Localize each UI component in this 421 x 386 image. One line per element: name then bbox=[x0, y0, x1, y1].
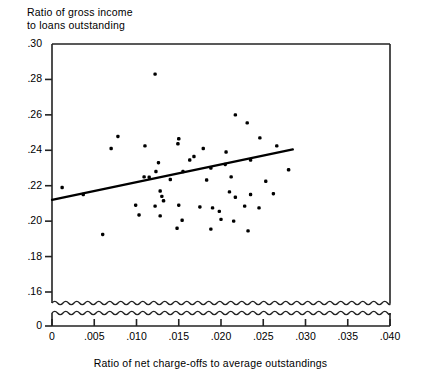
x-tick-label: .010 bbox=[117, 330, 157, 342]
data-point bbox=[192, 155, 195, 158]
data-point bbox=[153, 72, 156, 75]
data-point bbox=[158, 189, 161, 192]
data-point bbox=[142, 175, 145, 178]
data-point bbox=[224, 150, 227, 153]
data-point bbox=[109, 147, 112, 150]
data-point bbox=[176, 142, 179, 145]
data-point bbox=[147, 176, 150, 179]
data-point bbox=[154, 170, 157, 173]
y-tick-label: .22 bbox=[18, 179, 42, 191]
x-tick-label: .040 bbox=[370, 330, 410, 342]
y-tick-label: .30 bbox=[18, 37, 42, 49]
scatter-plot-figure: Ratio of gross income to loans outstandi… bbox=[0, 0, 421, 386]
data-point bbox=[162, 199, 165, 202]
data-point bbox=[211, 206, 214, 209]
data-point bbox=[229, 175, 232, 178]
data-point bbox=[272, 192, 275, 195]
x-tick-label: .005 bbox=[74, 330, 114, 342]
data-point bbox=[158, 214, 161, 217]
data-points bbox=[60, 72, 290, 236]
data-point bbox=[209, 227, 212, 230]
data-point bbox=[157, 161, 160, 164]
x-tick-label: 0 bbox=[32, 330, 72, 342]
data-point bbox=[205, 178, 208, 181]
data-point bbox=[218, 210, 221, 213]
data-point bbox=[224, 163, 227, 166]
data-point bbox=[175, 227, 178, 230]
x-tick-label: .015 bbox=[159, 330, 199, 342]
y-tick-label: .28 bbox=[18, 72, 42, 84]
data-point bbox=[153, 204, 156, 207]
y-tick-label: .18 bbox=[18, 250, 42, 262]
data-point bbox=[143, 144, 146, 147]
data-point bbox=[188, 158, 191, 161]
data-point bbox=[181, 170, 184, 173]
x-tick-label: .025 bbox=[243, 330, 283, 342]
x-tick-label: .030 bbox=[286, 330, 326, 342]
data-point bbox=[257, 206, 260, 209]
data-point bbox=[249, 158, 252, 161]
data-point bbox=[209, 166, 212, 169]
data-point bbox=[234, 113, 237, 116]
y-tick-label: .20 bbox=[18, 214, 42, 226]
data-point bbox=[246, 121, 249, 124]
regression-line bbox=[52, 149, 293, 199]
data-point bbox=[243, 204, 246, 207]
plot-canvas bbox=[0, 0, 421, 386]
data-point bbox=[177, 137, 180, 140]
x-tick-label: .020 bbox=[201, 330, 241, 342]
data-point bbox=[275, 144, 278, 147]
data-point bbox=[202, 147, 205, 150]
data-point bbox=[198, 205, 201, 208]
data-point bbox=[60, 186, 63, 189]
data-point bbox=[101, 233, 104, 236]
plot-frame bbox=[52, 44, 390, 303]
data-point bbox=[116, 135, 119, 138]
data-point bbox=[169, 178, 172, 181]
data-point bbox=[232, 219, 235, 222]
x-tick-label: .035 bbox=[328, 330, 368, 342]
data-point bbox=[234, 196, 237, 199]
data-point bbox=[249, 193, 252, 196]
data-point bbox=[180, 219, 183, 222]
data-point bbox=[258, 136, 261, 139]
y-tick-label: .26 bbox=[18, 108, 42, 120]
data-point bbox=[287, 168, 290, 171]
x-axis-ticks bbox=[52, 319, 390, 326]
data-point bbox=[219, 218, 222, 221]
y-tick-label: .24 bbox=[18, 143, 42, 155]
data-point bbox=[177, 204, 180, 207]
data-point bbox=[228, 190, 231, 193]
y-axis-ticks bbox=[45, 79, 52, 292]
data-point bbox=[264, 180, 267, 183]
data-point bbox=[160, 195, 163, 198]
data-point bbox=[137, 213, 140, 216]
y-baseline-zero-label: 0 bbox=[18, 319, 42, 331]
data-point bbox=[134, 204, 137, 207]
y-tick-label: .16 bbox=[18, 285, 42, 297]
data-point bbox=[82, 193, 85, 196]
data-point bbox=[246, 229, 249, 232]
